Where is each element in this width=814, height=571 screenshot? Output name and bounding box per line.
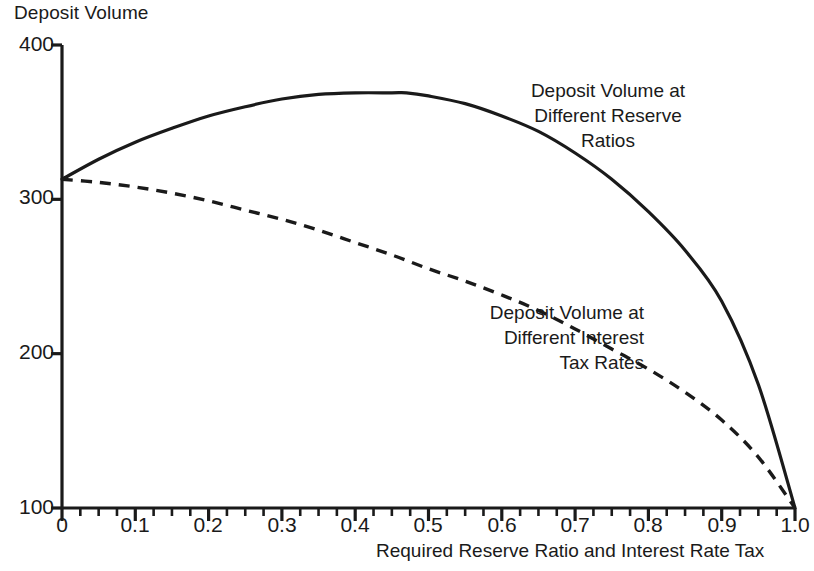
interest-tax-annotation: Deposit Volume at Different Interest Tax…	[372, 300, 644, 375]
x-tick-label-0-5: 0.5	[398, 513, 458, 537]
x-tick-label-0-1: 0.1	[105, 513, 165, 537]
x-tick-label-0-8: 0.8	[618, 513, 678, 537]
y-axis-ticks	[51, 45, 62, 508]
x-tick-label-0-4: 0.4	[325, 513, 385, 537]
x-tick-label-0-7: 0.7	[545, 513, 605, 537]
reserve-ratio-annotation: Deposit Volume at Different Reserve Rati…	[493, 78, 723, 153]
chart-figure: Deposit Volume 400 300 200 100 0 0.1 0.2…	[0, 0, 814, 571]
y-tick-label-200: 200	[0, 340, 54, 364]
x-tick-label-1-0: 1.0	[765, 513, 814, 537]
x-tick-label-0: 0	[32, 513, 92, 537]
y-tick-label-300: 300	[0, 185, 54, 209]
y-axis-title: Deposit Volume	[14, 2, 148, 24]
x-tick-label-0-6: 0.6	[472, 513, 532, 537]
y-tick-label-400: 400	[0, 32, 54, 56]
x-tick-label-0-3: 0.3	[252, 513, 312, 537]
x-tick-label-0-2: 0.2	[178, 513, 238, 537]
x-tick-label-0-9: 0.9	[692, 513, 752, 537]
x-axis-title: Required Reserve Ratio and Interest Rate…	[376, 540, 764, 562]
